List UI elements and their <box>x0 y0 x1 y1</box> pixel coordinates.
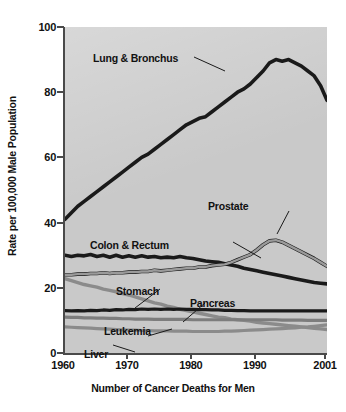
x-tick-label: 2001 <box>313 359 336 371</box>
chart-figure: Rate per 100,000 Male Population Number … <box>0 0 346 412</box>
x-tick-label: 1960 <box>51 359 74 371</box>
y-tick-label: 100 <box>18 21 56 33</box>
y-tick-label: 0 <box>18 347 56 359</box>
series-label-lung: Lung & Bronchus <box>93 52 178 64</box>
series-label-prostate: Prostate <box>208 200 248 212</box>
x-axis-title: Number of Cancer Deaths for Men <box>0 382 346 394</box>
series-label-stomach: Stomach <box>116 285 159 297</box>
series-label-pancreas: Pancreas <box>190 297 235 309</box>
label-leader-line <box>233 242 261 258</box>
y-tick-label: 40 <box>18 217 56 229</box>
series-label-colon: Colon & Rectum <box>90 239 169 251</box>
label-leader-line <box>148 329 172 336</box>
x-tick-label: 1990 <box>243 359 266 371</box>
x-tick-label: 1970 <box>115 359 138 371</box>
x-tick-label: 1980 <box>179 359 202 371</box>
label-leader-line <box>277 211 289 234</box>
y-tick-label: 60 <box>18 151 56 163</box>
y-tick-label: 20 <box>18 282 56 294</box>
label-leader-line <box>194 57 225 71</box>
series-label-leukemia: Leukemia <box>104 325 151 337</box>
series-label-liver: Liver <box>84 348 108 360</box>
y-axis-title: Rate per 100,000 Male Population <box>6 76 18 276</box>
label-leader-line <box>113 345 135 352</box>
y-tick-label: 80 <box>18 86 56 98</box>
